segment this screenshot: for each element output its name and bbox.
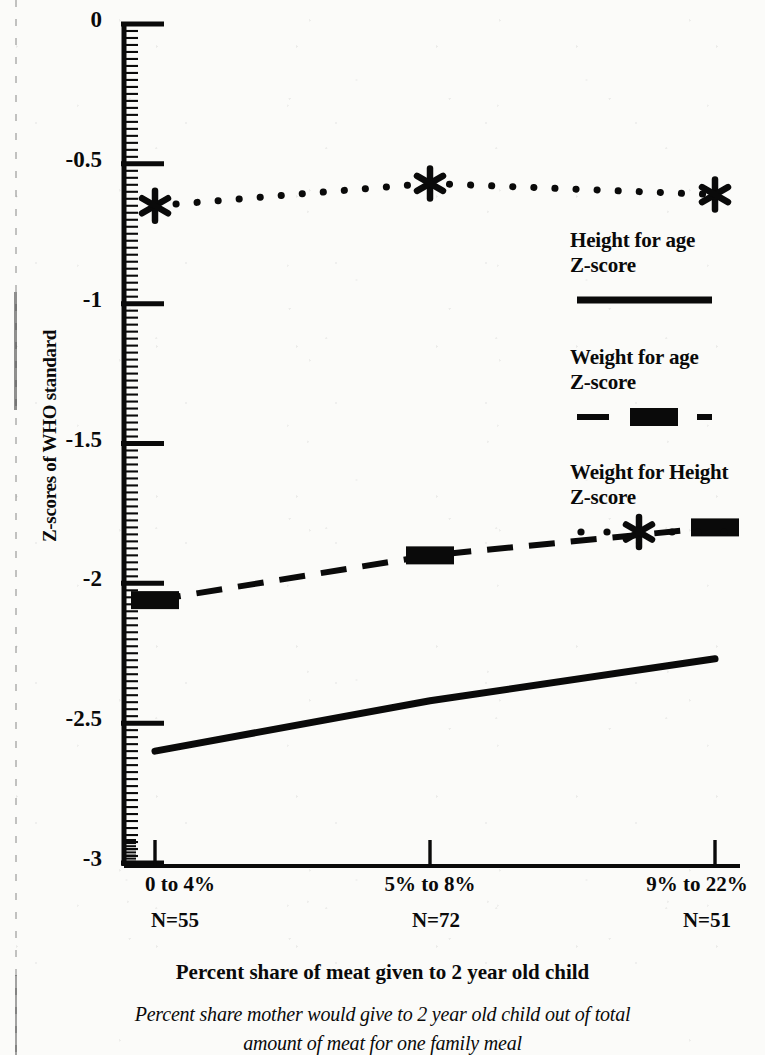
legend-entry-line-1: Weight for Height	[570, 460, 728, 485]
series-solid	[155, 659, 715, 751]
y-axis-tick-label: -2	[12, 566, 102, 592]
legend-swatch-dashed-square	[577, 408, 712, 426]
x-axis-sample-size-label: N=55	[65, 908, 285, 933]
legend-entry-line-2: Z-score	[570, 370, 699, 395]
caption-line-2: amount of meat for one family meal	[0, 1029, 765, 1055]
y-axis-tick-label: -2.5	[12, 706, 102, 732]
legend-entry-line-1: Weight for age	[570, 345, 699, 370]
y-axis-tick-label: -1.5	[12, 427, 102, 453]
legend-entry-line-1: Height for age	[570, 228, 695, 253]
series-dashed	[131, 518, 739, 609]
legend-entry-line-2: Z-score	[570, 253, 695, 278]
y-axis-tick-label: -0.5	[12, 147, 102, 173]
x-axis-sample-size-label: N=51	[597, 908, 765, 933]
figure-caption: Percent share mother would give to 2 yea…	[0, 1000, 765, 1055]
legend-entry-line-2: Z-score	[570, 485, 728, 510]
x-axis-title: Percent share of meat given to 2 year ol…	[0, 960, 765, 985]
legend-entry: Weight for HeightZ-score	[570, 460, 728, 510]
series-dotted	[142, 168, 728, 220]
legend-marker-layer	[577, 300, 728, 547]
legend-entry: Height for ageZ-score	[570, 228, 695, 278]
legend-entry: Weight for ageZ-score	[570, 345, 699, 395]
y-axis-tick-label: -1	[12, 287, 102, 313]
chart-figure: Z-scores of WHO standard 0-0.5-1-1.5-2-2…	[0, 0, 765, 1055]
x-axis-sample-size-label: N=72	[326, 908, 546, 933]
caption-line-1: Percent share mother would give to 2 yea…	[0, 1000, 765, 1029]
x-axis-category-label: 0 to 4%	[70, 872, 290, 897]
y-axis-tick-label: 0	[12, 7, 102, 33]
x-axis-category-label: 9% to 22%	[587, 872, 765, 897]
y-axis-tick-label: -3	[12, 846, 102, 872]
x-axis-category-label: 5% to 8%	[320, 872, 540, 897]
